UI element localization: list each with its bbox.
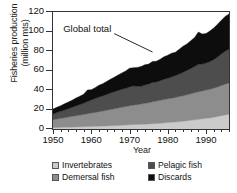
y-tick-label: 80 — [18, 45, 44, 55]
x-tick-minor — [183, 130, 184, 132]
legend-row: Invertebrates Pelagic fish — [52, 159, 230, 171]
x-tick-label: 1990 — [195, 134, 216, 145]
legend-label-discards: Discards — [158, 172, 191, 182]
x-tick-minor — [229, 130, 230, 132]
legend-swatch-pelagic-fish — [148, 162, 155, 169]
legend-item-invertebrates: Invertebrates — [52, 160, 148, 170]
x-tick-minor — [137, 130, 138, 132]
y-tick-label: 60 — [18, 64, 44, 74]
x-tick-minor — [68, 130, 69, 132]
legend-item-discards: Discards — [148, 172, 191, 182]
x-tick-minor — [198, 130, 199, 132]
y-tick-label: 120 — [18, 6, 44, 16]
legend-label-demersal-fish: Demersal fish — [62, 172, 115, 182]
y-axis: 020406080100120 — [0, 11, 52, 130]
legend: Invertebrates Pelagic fish Demersal fish… — [52, 159, 230, 183]
legend-row: Demersal fish Discards — [52, 171, 230, 183]
x-axis-title: Year — [52, 145, 232, 155]
legend-item-demersal-fish: Demersal fish — [52, 172, 148, 182]
y-tick-label: 100 — [18, 25, 44, 35]
global-total-annotation: Global total — [63, 23, 111, 34]
x-tick-label: 1970 — [119, 134, 140, 145]
y-tick-label: 40 — [18, 84, 44, 94]
x-tick-minor — [214, 130, 215, 132]
x-tick-minor — [76, 130, 77, 132]
x-tick-minor — [122, 130, 123, 132]
legend-swatch-demersal-fish — [52, 174, 59, 181]
legend-label-pelagic-fish: Pelagic fish — [158, 160, 202, 170]
x-tick-minor — [221, 130, 222, 132]
x-tick-minor — [175, 130, 176, 132]
x-tick-minor — [191, 130, 192, 132]
legend-item-pelagic-fish: Pelagic fish — [148, 160, 202, 170]
x-tick-minor — [107, 130, 108, 132]
y-tick-label: 0 — [18, 123, 44, 133]
x-tick-label: 1950 — [42, 134, 63, 145]
fisheries-production-chart: Fisheries production (million mts) 02040… — [0, 0, 237, 193]
x-tick-minor — [145, 130, 146, 132]
legend-label-invertebrates: Invertebrates — [62, 160, 112, 170]
x-tick-label: 1960 — [81, 134, 102, 145]
x-tick-minor — [114, 130, 115, 132]
legend-swatch-invertebrates — [52, 162, 59, 169]
x-tick-minor — [61, 130, 62, 132]
y-tick-label: 20 — [18, 103, 44, 113]
x-tick-minor — [160, 130, 161, 132]
x-tick-label: 1980 — [157, 134, 178, 145]
x-tick-minor — [152, 130, 153, 132]
x-tick-minor — [99, 130, 100, 132]
x-tick-minor — [84, 130, 85, 132]
legend-swatch-discards — [148, 174, 155, 181]
